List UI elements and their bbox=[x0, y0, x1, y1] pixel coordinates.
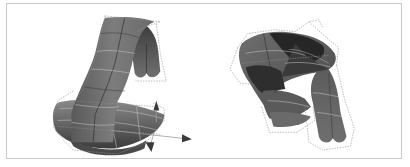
z-axis-arrow-icon bbox=[145, 142, 154, 152]
hanging-lobes bbox=[311, 65, 346, 142]
curled-surface-render bbox=[205, 4, 401, 158]
viewport-left bbox=[7, 4, 205, 158]
figure-frame bbox=[6, 3, 402, 159]
deformed-ribbon-render bbox=[7, 4, 205, 158]
viewport-right bbox=[205, 4, 401, 158]
x-axis-arrow-icon bbox=[182, 134, 192, 142]
